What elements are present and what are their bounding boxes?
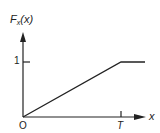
cdf-diagram: Fx(x) 1 O T x <box>0 0 160 133</box>
x-axis-arrow-icon <box>134 114 146 120</box>
origin-label: O <box>19 121 27 131</box>
y-axis-arrow-icon <box>20 32 26 42</box>
x-axis-label: x <box>149 111 155 122</box>
y-axis-label: Fx(x) <box>10 14 33 26</box>
cdf-curve <box>23 62 145 117</box>
x-tick-label: T <box>117 121 123 131</box>
y-tick-label: 1 <box>14 56 20 66</box>
